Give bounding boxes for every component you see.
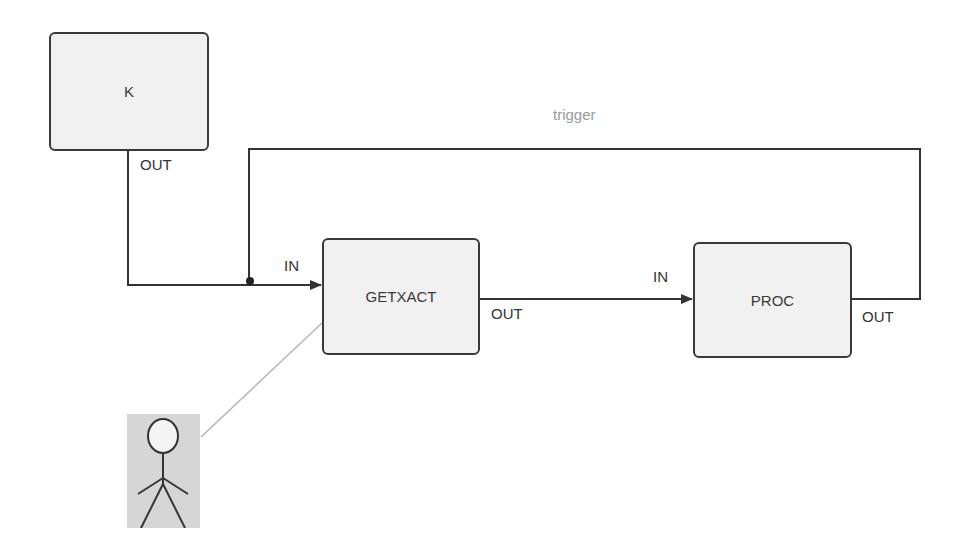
stick-figure-icon bbox=[127, 414, 200, 528]
port-getxact-out: OUT bbox=[491, 305, 523, 322]
node-getxact[interactable]: GETXACT bbox=[322, 238, 480, 355]
node-k-label: K bbox=[124, 83, 134, 100]
port-proc-in: IN bbox=[653, 268, 668, 285]
node-k[interactable]: K bbox=[49, 32, 209, 151]
actor[interactable] bbox=[127, 414, 200, 528]
actor-association-line bbox=[201, 323, 322, 437]
port-proc-out: OUT bbox=[862, 308, 894, 325]
junction-dot bbox=[246, 277, 254, 285]
port-getxact-in: IN bbox=[284, 257, 299, 274]
node-proc[interactable]: PROC bbox=[693, 242, 852, 358]
port-k-out: OUT bbox=[140, 156, 172, 173]
node-proc-label: PROC bbox=[751, 292, 794, 309]
edge-label-trigger: trigger bbox=[553, 106, 596, 123]
node-getxact-label: GETXACT bbox=[366, 288, 437, 305]
